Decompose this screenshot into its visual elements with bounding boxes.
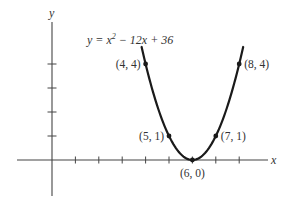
point-label: (7, 1) xyxy=(221,130,246,143)
parabola-chart: (4, 4)(5, 1)(6, 0)(7, 1)(8, 4) x y y = x… xyxy=(0,0,290,206)
point-label: (8, 4) xyxy=(244,58,269,71)
curve-path xyxy=(142,47,244,160)
labeled-points: (4, 4)(5, 1)(6, 0)(7, 1)(8, 4) xyxy=(116,58,270,180)
x-axis-label: x xyxy=(270,153,277,167)
point-marker xyxy=(190,158,195,163)
equation-prefix: y = x xyxy=(86,33,112,47)
y-axis-label: y xyxy=(48,6,55,20)
point-marker xyxy=(167,134,172,139)
point-marker xyxy=(213,134,218,139)
point-label: (4, 4) xyxy=(116,58,141,71)
equation-suffix: − 12x + 36 xyxy=(116,33,174,47)
point-marker xyxy=(237,62,242,67)
point-label: (5, 1) xyxy=(139,130,164,143)
equation-label: y = x2 − 12x + 36 xyxy=(86,32,173,47)
point-marker xyxy=(143,62,148,67)
point-label: (6, 0) xyxy=(180,167,205,180)
parabola-curve xyxy=(142,47,244,160)
